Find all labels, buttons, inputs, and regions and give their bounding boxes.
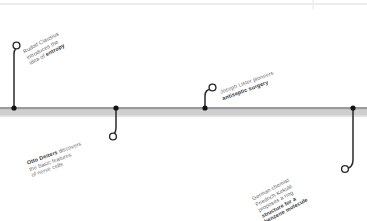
event-dot-kekule [350, 105, 355, 110]
event-endpoint-circle-deiters [110, 133, 117, 140]
timeline-axis-bar [0, 107, 367, 117]
event-endpoint-circle-kekule [342, 166, 349, 173]
connector-line-clausius [14, 47, 19, 109]
timeline-figure: Rudolf Clausius introduces the idea of e… [0, 0, 367, 221]
event-dot-deiters [113, 105, 118, 110]
event-endpoint-circle-clausius [13, 42, 20, 49]
event-marker-clausius[interactable] [11, 42, 20, 111]
event-endpoint-circle-lister [209, 84, 216, 91]
event-marker-lister[interactable] [202, 84, 216, 111]
connector-line-lister [205, 90, 210, 109]
event-dot-clausius [11, 105, 16, 110]
event-dot-lister [202, 105, 207, 110]
